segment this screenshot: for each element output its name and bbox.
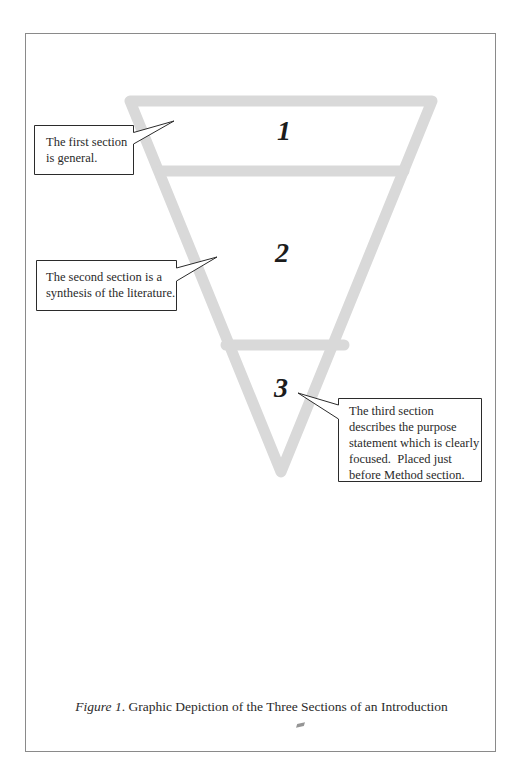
callout-2-line-1: The second section is a (46, 269, 175, 285)
callout-2-line-2: synthesis of the literature. (46, 285, 175, 301)
callout-3-line-4: focused. Placed just (349, 451, 479, 467)
callout-1-line-1: The first section (46, 134, 127, 150)
figure-caption-text: . Graphic Depiction of the Three Section… (122, 699, 448, 714)
callout-3-line-2: describes the purpose (349, 419, 479, 435)
callout-1-text: The first section is general. (46, 134, 127, 166)
figure-label: Figure 1 (75, 699, 121, 714)
figure-caption: Figure 1. Graphic Depiction of the Three… (0, 699, 523, 715)
callout-3-line-5: before Method section. (349, 467, 479, 483)
callout-3-line-1: The third section (349, 403, 479, 419)
funnel-diagram (0, 0, 523, 781)
callout-3-text: The third section describes the purpose … (349, 403, 479, 483)
callout-1-line-2: is general. (46, 150, 127, 166)
callout-2-text: The second section is a synthesis of the… (46, 269, 175, 301)
section-number-3: 3 (274, 374, 288, 402)
section-number-2: 2 (275, 239, 289, 267)
callout-3-line-3: statement which is clearly (349, 435, 479, 451)
section-number-1: 1 (277, 117, 291, 145)
